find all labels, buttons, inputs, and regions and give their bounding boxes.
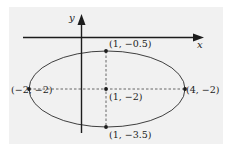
ellipse-diagram: x y (1, −0.5) (1, −2) (−2, −2) (4, −2) (…	[0, 0, 229, 153]
diagram-canvas: x y (1, −0.5) (1, −2) (−2, −2) (4, −2) (…	[0, 0, 229, 153]
point-right-label: (4, −2)	[186, 84, 220, 95]
y-axis-arrow-icon	[78, 14, 86, 25]
point-bottom-marker	[104, 125, 108, 129]
point-center-label: (1, −2)	[109, 91, 143, 102]
point-top-label: (1, −0.5)	[109, 38, 152, 49]
point-center-marker	[104, 87, 108, 91]
y-axis-label: y	[68, 12, 75, 23]
point-top-marker	[104, 49, 108, 53]
point-bottom-label: (1, −3.5)	[109, 129, 152, 140]
x-axis-label: x	[197, 39, 203, 50]
point-left-label: (−2, −2)	[11, 84, 52, 95]
